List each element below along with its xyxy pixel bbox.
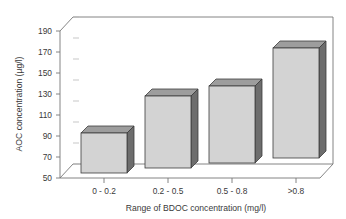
bar-top-face-3 bbox=[273, 41, 326, 48]
bar-top-face-0 bbox=[81, 126, 134, 133]
x-tick-label-3: >0.8 bbox=[288, 186, 305, 196]
bar-side-face-2 bbox=[255, 79, 262, 163]
x-tick-label-1: 0.2 - 0.5 bbox=[153, 186, 184, 196]
bar-top-face-1 bbox=[145, 89, 198, 96]
y-tick-label-6: 170 bbox=[38, 47, 52, 57]
y-tick-label-7: 190 bbox=[38, 26, 52, 36]
bar-group-2 bbox=[209, 79, 262, 163]
bar-side-face-3 bbox=[319, 41, 326, 158]
y-tick-label-4: 130 bbox=[38, 89, 52, 99]
y-axis-title: AOC concentration (µg/l) bbox=[14, 56, 24, 151]
bar-group-0 bbox=[81, 126, 134, 173]
y-tick-label-0: 50 bbox=[43, 173, 53, 183]
x-tick-label-2: 0.5 - 0.8 bbox=[217, 186, 248, 196]
bar-side-face-1 bbox=[191, 89, 198, 168]
bar-chart-figure: 50 70 90 110 130 150 170 190 bbox=[0, 0, 346, 219]
bar-front-face-1 bbox=[145, 96, 191, 168]
y-tick-label-5: 150 bbox=[38, 68, 52, 78]
bar-group-1 bbox=[145, 89, 198, 168]
y-tick-label-2: 90 bbox=[43, 131, 53, 141]
chart-canvas: 50 70 90 110 130 150 170 190 bbox=[0, 0, 346, 219]
bar-side-face-0 bbox=[127, 126, 134, 173]
y-tick-label-3: 110 bbox=[39, 110, 53, 120]
bar-front-face-2 bbox=[209, 86, 255, 163]
x-axis-title: Range of BDOC concentration (mg/l) bbox=[126, 203, 267, 213]
x-tick-label-0: 0 - 0.2 bbox=[92, 186, 116, 196]
bar-group-3 bbox=[273, 41, 326, 158]
bar-top-face-2 bbox=[209, 79, 262, 86]
y-tick-label-1: 70 bbox=[43, 152, 53, 162]
bar-front-face-3 bbox=[273, 48, 319, 158]
bar-front-face-0 bbox=[81, 133, 127, 173]
